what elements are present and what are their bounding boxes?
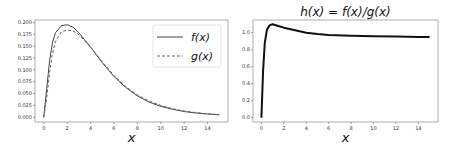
x-tick-label: 2: [66, 125, 69, 131]
legend-label: f(x): [191, 31, 210, 44]
y-tick-label: 0.100: [18, 67, 32, 73]
right-chart-hx: 024681012140.00.20.40.60.81.0xh(x) = f(x…: [242, 5, 438, 145]
x-tick-label: 12: [181, 125, 187, 131]
chart-figure: 024681012140.0000.0250.0500.0750.1000.12…: [0, 0, 452, 148]
x-tick-label: 8: [136, 125, 139, 131]
y-tick-label: 0.6: [242, 63, 250, 69]
y-tick-label: 0.2: [242, 97, 250, 103]
y-tick-label: 0.025: [18, 102, 32, 108]
y-tick-label: 0.000: [18, 114, 32, 120]
x-axis-label: x: [341, 130, 350, 145]
y-tick-label: 0.150: [18, 43, 32, 49]
legend: f(x)g(x): [153, 25, 221, 67]
y-tick-label: 1.0: [242, 29, 250, 35]
x-tick-label: 12: [393, 125, 399, 131]
x-axis-label: x: [127, 130, 136, 145]
y-tick-label: 0.200: [18, 19, 32, 25]
x-tick-label: 0: [260, 125, 263, 131]
y-tick-label: 0.4: [242, 80, 250, 86]
legend-label: g(x): [191, 50, 213, 63]
y-tick-label: 0.0: [242, 114, 250, 120]
x-tick-label: 14: [204, 125, 210, 131]
x-tick-label: 2: [282, 125, 285, 131]
y-tick-label: 0.075: [18, 78, 32, 84]
y-tick-label: 0.125: [18, 55, 32, 61]
x-tick-label: 8: [350, 125, 353, 131]
x-tick-label: 0: [42, 125, 45, 131]
x-tick-label: 14: [415, 125, 421, 131]
y-tick-label: 0.175: [18, 31, 32, 37]
x-tick-label: 4: [89, 125, 92, 131]
y-tick-label: 0.8: [242, 46, 250, 52]
y-tick-label: 0.050: [18, 90, 32, 96]
x-tick-label: 6: [112, 125, 115, 131]
x-tick-label: 4: [305, 125, 308, 131]
chart-title: h(x) = f(x)/g(x): [300, 5, 391, 19]
x-tick-label: 10: [370, 125, 376, 131]
x-tick-label: 6: [327, 125, 330, 131]
x-tick-label: 10: [158, 125, 164, 131]
left-chart-fg: 024681012140.0000.0250.0500.0750.1000.12…: [18, 19, 228, 145]
